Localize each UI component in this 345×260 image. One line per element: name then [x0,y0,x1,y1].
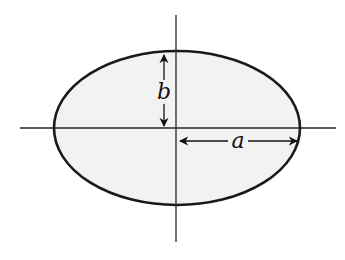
semi-minor-label: b [157,79,171,104]
ellipse-diagram: b a [0,0,345,260]
semi-major-label: a [231,128,244,153]
